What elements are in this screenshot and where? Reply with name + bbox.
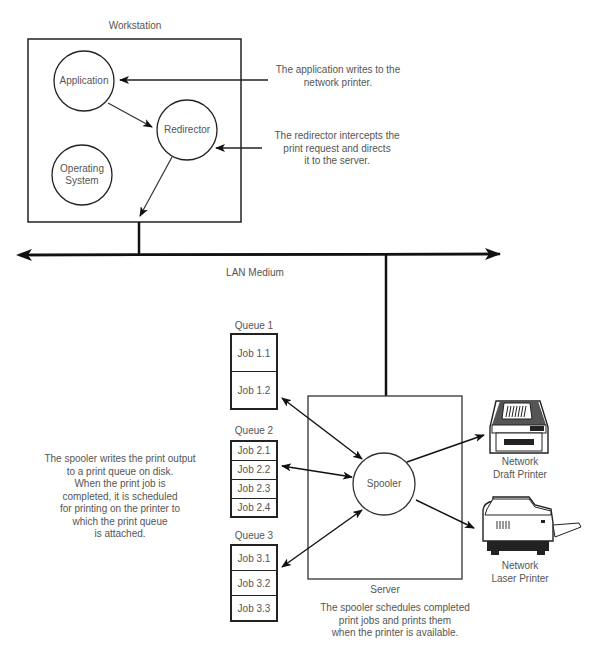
dot-matrix-printer-icon xyxy=(490,401,548,453)
workstation-title: Workstation xyxy=(100,20,170,32)
server-title: Server xyxy=(350,584,420,596)
laser-printer-label: Network Laser Printer xyxy=(480,560,560,585)
job-2-3[interactable]: Job 2.3 xyxy=(232,480,276,499)
laser-printer-icon xyxy=(483,497,581,555)
redirector-note: The redirector intercepts the print requ… xyxy=(262,130,412,168)
queue-3: Job 3.1 Job 3.2 Job 3.3 xyxy=(230,544,278,622)
job-3-1[interactable]: Job 3.1 xyxy=(232,546,276,571)
queue-3-title: Queue 3 xyxy=(226,530,282,542)
job-3-2[interactable]: Job 3.2 xyxy=(232,571,276,596)
operating-system-label: Operating System xyxy=(60,163,104,187)
diagram-canvas xyxy=(0,0,600,653)
job-1-2[interactable]: Job 1.2 xyxy=(232,372,276,409)
job-2-2[interactable]: Job 2.2 xyxy=(232,461,276,480)
spooler-label: Spooler xyxy=(367,478,401,490)
application-note: The application writes to the network pr… xyxy=(268,64,408,89)
spooler-queue-note: The spooler writes the print output to a… xyxy=(25,453,215,541)
spooler-to-draft-arrow xyxy=(407,435,484,462)
lan-medium-label: LAN Medium xyxy=(215,267,295,279)
draft-printer-label: Network Draft Printer xyxy=(480,456,560,481)
queue-1: Job 1.1 Job 1.2 xyxy=(230,333,278,410)
job-3-3[interactable]: Job 3.3 xyxy=(232,596,276,620)
spooler-schedule-note: The spooler schedules completed print jo… xyxy=(310,602,480,640)
job-2-1[interactable]: Job 2.1 xyxy=(232,442,276,461)
app-to-redirector-arrow xyxy=(108,103,152,127)
queue2-spooler-arrow xyxy=(282,466,352,477)
redirector-to-lan-arrow xyxy=(140,157,172,216)
queue-1-title: Queue 1 xyxy=(226,320,282,332)
queue-2: Job 2.1 Job 2.2 Job 2.3 Job 2.4 xyxy=(230,440,278,518)
job-1-1[interactable]: Job 1.1 xyxy=(232,335,276,372)
spooler-to-laser-arrow xyxy=(416,500,474,528)
queue3-spooler-arrow xyxy=(282,510,362,567)
queue-2-title: Queue 2 xyxy=(226,425,282,437)
job-2-4[interactable]: Job 2.4 xyxy=(232,499,276,518)
application-label: Application xyxy=(60,75,109,87)
redirector-label: Redirector xyxy=(164,124,210,136)
queue1-spooler-arrow xyxy=(282,398,362,459)
